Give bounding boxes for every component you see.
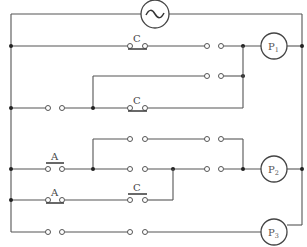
lamp-p2: P2 [261,156,287,182]
contact-label: C [133,95,141,106]
no-contact-row4a [128,137,148,142]
circuit-diagram: C P1 [0,0,307,247]
nc-pushbutton-a: A [46,187,65,203]
row-2 [93,74,245,109]
no-contact-row3 [46,106,65,111]
contact-label: C [133,33,141,44]
row-1: C P1 [9,33,304,59]
row-4 [93,137,243,170]
ac-source-icon [141,0,169,28]
contact-label: C [133,182,141,193]
row-6: A C [9,169,173,203]
no-contact-row5b [205,167,224,172]
lamp-p3: P3 [261,219,287,245]
no-contact-row1 [205,44,224,49]
row-5: A P2 [9,151,304,182]
lamp-p1: P1 [261,33,287,59]
no-pushbutton-a: A [46,151,65,172]
row-7: P3 [11,219,302,245]
no-contact-row4b [205,137,224,142]
no-contact-c-row6: C [128,182,148,203]
pushbutton-label: A [50,151,59,162]
no-contact-row7a [46,230,65,235]
nc-contact-c-row1: C [128,33,148,49]
supply-line [11,14,302,232]
nc-contact-c-row3: C [128,95,148,111]
no-contact-row5a [128,167,148,172]
pushbutton-label: A [50,187,59,198]
no-contact-row2 [205,74,224,79]
no-contact-row7b [128,230,148,235]
